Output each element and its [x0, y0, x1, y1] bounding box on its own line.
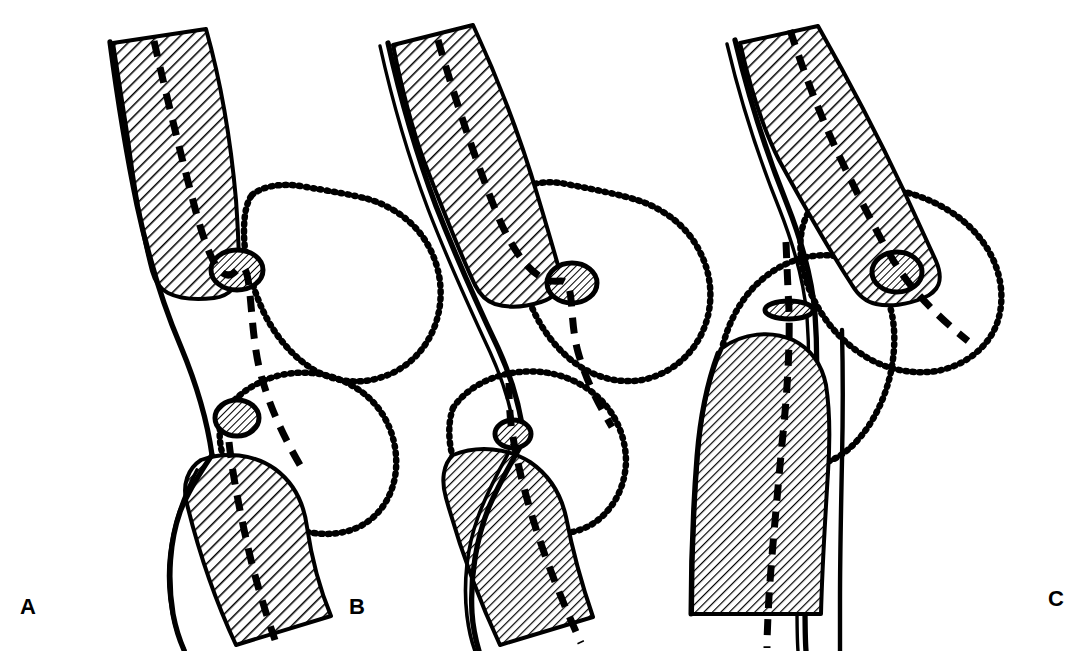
panel-label-c: C	[1048, 588, 1064, 610]
panel-c-patella-en-face	[872, 252, 922, 292]
panel-label-a: A	[20, 596, 36, 618]
panel-a-patella-upper	[211, 250, 263, 290]
panel-label-b: B	[349, 596, 365, 618]
figure-root: A B C	[0, 0, 1088, 651]
panel-a-patella-lower	[215, 400, 259, 436]
anatomical-diagram-svg	[0, 0, 1088, 651]
